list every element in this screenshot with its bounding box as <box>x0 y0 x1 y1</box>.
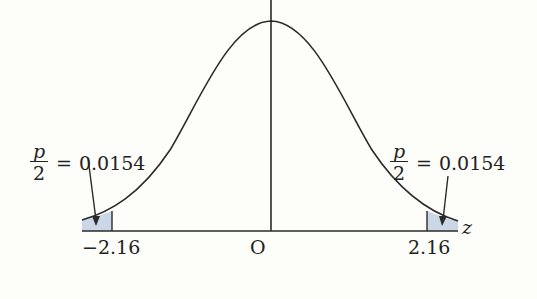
left-critical-label: −2.16 <box>82 238 140 257</box>
left-tail-label: p 2 = 0.0154 <box>30 141 145 184</box>
right-fraction: p 2 <box>390 141 408 184</box>
right-tail-value: 0.0154 <box>439 152 505 174</box>
left-fraction-numerator: p <box>31 141 47 161</box>
right-critical-label: 2.16 <box>408 238 450 257</box>
origin-label: O <box>250 238 266 257</box>
left-fraction: p 2 <box>30 141 48 184</box>
right-tail-label: p 2 = 0.0154 <box>390 141 505 184</box>
left-fraction-denominator: 2 <box>33 162 45 184</box>
z-axis-label: z <box>462 218 472 237</box>
bell-curve <box>82 21 458 221</box>
right-equals: = <box>416 152 432 174</box>
right-fraction-numerator: p <box>391 141 407 161</box>
right-fraction-denominator: 2 <box>393 162 405 184</box>
left-tail-value: 0.0154 <box>79 152 145 174</box>
left-equals: = <box>56 152 72 174</box>
